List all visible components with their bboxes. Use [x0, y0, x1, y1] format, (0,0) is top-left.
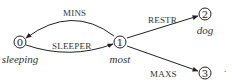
edge-restr: RESTR	[127, 15, 198, 38]
node-2: 2 dog	[197, 8, 214, 36]
edge-sleeper: SLEEPER	[26, 41, 113, 52]
edge-maxs: MAXS	[127, 46, 198, 79]
edge-label-restr: RESTR	[148, 15, 177, 25]
node-3: 3	[199, 67, 211, 79]
graph-diagram: MINS SLEEPER RESTR MAXS 0 sleeping 1 mos…	[0, 0, 232, 82]
trailing-period: .	[224, 64, 226, 74]
node-1-label: 1	[117, 37, 123, 48]
node-0-label: 0	[17, 37, 23, 48]
node-0-word: sleeping	[2, 53, 39, 65]
edge-label-sleeper: SLEEPER	[52, 41, 91, 51]
node-1: 1 most	[110, 36, 132, 65]
edge-label-mins: MINS	[63, 8, 86, 18]
node-1-word: most	[110, 53, 132, 65]
node-0: 0 sleeping	[2, 36, 39, 65]
node-3-label: 3	[202, 68, 208, 79]
node-2-word: dog	[197, 24, 214, 36]
edge-label-maxs: MAXS	[150, 69, 177, 79]
edge-mins: MINS	[26, 8, 114, 38]
node-2-label: 2	[202, 9, 208, 20]
